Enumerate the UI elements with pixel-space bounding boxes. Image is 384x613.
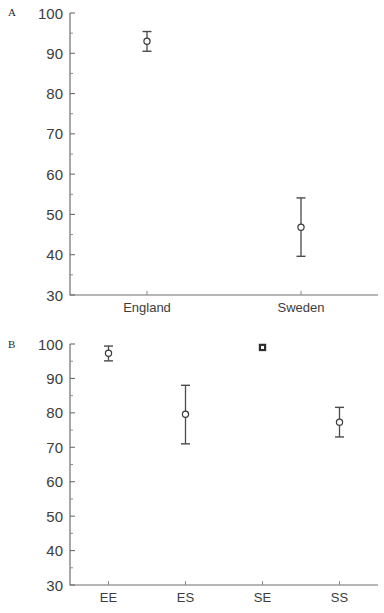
y-axis-tick-label: 100	[38, 336, 63, 353]
y-axis-tick-label: 100	[38, 5, 63, 22]
plot-axes	[70, 13, 378, 295]
y-axis-tick-label: 70	[46, 439, 63, 456]
data-point-group	[181, 385, 190, 444]
y-axis-tick-label: 70	[46, 125, 63, 142]
y-axis-tick-label: 60	[46, 166, 63, 183]
plot-axes	[70, 344, 378, 585]
y-axis-tick-label: 40	[46, 542, 63, 559]
y-axis-tick-label: 30	[46, 577, 63, 594]
y-axis-tick-label: 90	[46, 45, 63, 62]
x-axis-tick-label: ES	[177, 590, 195, 605]
data-point-marker	[260, 345, 265, 350]
panel-b: B 30405060708090100EEESSESS	[0, 332, 384, 613]
data-point-group	[297, 198, 306, 256]
figure-container: A 30405060708090100EnglandSweden B 30405…	[0, 0, 384, 613]
y-axis-tick-label: 80	[46, 404, 63, 421]
data-point-group	[143, 32, 152, 52]
data-point-group	[260, 345, 265, 350]
data-point-marker	[336, 419, 342, 425]
data-point-group	[335, 407, 344, 437]
panel-b-plot: 30405060708090100EEESSESS	[0, 332, 384, 613]
x-axis-tick-label: SS	[331, 590, 349, 605]
x-axis-tick-label: EE	[100, 590, 118, 605]
y-axis-tick-label: 60	[46, 473, 63, 490]
x-axis-tick-label: SE	[254, 590, 272, 605]
panel-a-plot: 30405060708090100EnglandSweden	[0, 0, 384, 318]
panel-a: A 30405060708090100EnglandSweden	[0, 0, 384, 318]
x-axis-tick-label: England	[123, 300, 171, 315]
data-point-marker	[144, 38, 150, 44]
y-axis-tick-label: 80	[46, 85, 63, 102]
data-point-marker	[182, 411, 188, 417]
data-point-marker	[105, 350, 111, 356]
data-point-marker	[298, 224, 304, 230]
y-axis-tick-label: 50	[46, 508, 63, 525]
data-point-group	[104, 346, 113, 361]
y-axis-tick-label: 90	[46, 370, 63, 387]
y-axis-tick-label: 50	[46, 206, 63, 223]
y-axis-tick-label: 40	[46, 246, 63, 263]
x-axis-tick-label: Sweden	[278, 300, 325, 315]
y-axis-tick-label: 30	[46, 287, 63, 304]
